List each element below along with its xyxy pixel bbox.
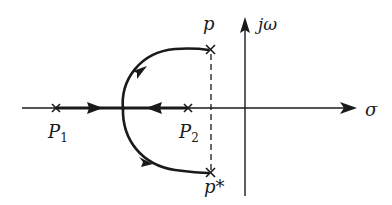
- label-p1: P1: [47, 121, 68, 145]
- imaginary-axis: [240, 17, 250, 196]
- label-jomega: jω: [254, 14, 277, 34]
- label-p: p: [203, 13, 215, 34]
- locus-upper-arc: [123, 49, 209, 110]
- locus-arrow-right-icon: [87, 102, 103, 114]
- root-locus-diagram: P1 P2 p p* σ jω: [0, 0, 392, 205]
- locus-arrow-left-icon: [146, 102, 162, 114]
- label-p2: P2: [178, 121, 199, 145]
- label-p-conjugate: p*: [204, 176, 225, 197]
- label-sigma: σ: [365, 99, 378, 120]
